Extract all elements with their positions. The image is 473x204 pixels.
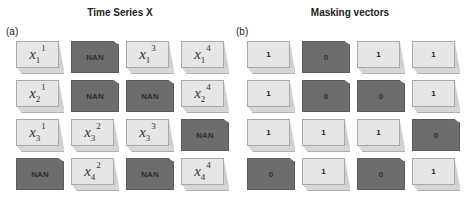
variable-superscript: 4 xyxy=(206,43,211,53)
cell-bottom-face xyxy=(182,185,229,191)
variable-superscript: 1 xyxy=(41,43,46,53)
mask-zero-cell: 0 xyxy=(302,80,350,112)
cell-face: 1 xyxy=(247,119,290,146)
nan-label: NAN xyxy=(31,170,48,179)
mask-zero-cell: 0 xyxy=(357,80,405,112)
observed-value-cell: x33 xyxy=(126,119,174,151)
cell-face: 0 xyxy=(357,80,405,112)
variable-base: x xyxy=(194,163,201,179)
nan-label: NAN xyxy=(196,131,213,140)
variable-base: x xyxy=(29,124,36,140)
variable-base: x xyxy=(139,46,146,62)
mask-value: 0 xyxy=(269,170,273,179)
observed-value-cell: x14 xyxy=(181,41,229,73)
cell-side-face xyxy=(114,121,119,148)
variable-base: x xyxy=(194,46,201,62)
cell-side-face xyxy=(224,43,229,70)
cell-side-face xyxy=(169,121,174,148)
panel-b-title: Masking vectors xyxy=(250,7,450,18)
cell-bottom-face xyxy=(17,107,64,113)
mask-one-cell: 1 xyxy=(302,119,350,151)
mask-value: 1 xyxy=(431,167,435,176)
variable-label: x11 xyxy=(29,46,46,63)
mask-value: 0 xyxy=(379,170,383,179)
mask-value: 1 xyxy=(266,89,270,98)
cell-bottom-face xyxy=(17,146,64,152)
mask-value: 0 xyxy=(324,53,328,62)
cell-side-face xyxy=(224,82,229,109)
cell-face: 1 xyxy=(357,41,400,68)
mask-value: 0 xyxy=(434,131,438,140)
missing-value-cell: NAN xyxy=(71,80,119,112)
missing-value-cell: NAN xyxy=(126,80,174,112)
cell-bottom-face xyxy=(248,68,295,74)
cell-face: 1 xyxy=(357,119,400,146)
cell-face: x33 xyxy=(126,119,169,146)
cell-side-face xyxy=(455,82,460,109)
cell-side-face xyxy=(59,43,64,70)
mask-one-cell: 1 xyxy=(357,119,405,151)
variable-superscript: 4 xyxy=(206,160,211,170)
mask-one-cell: 1 xyxy=(247,41,295,73)
panel-a-label: (a) xyxy=(6,26,18,37)
variable-superscript: 2 xyxy=(96,121,101,131)
mask-zero-cell: 0 xyxy=(302,41,350,73)
mask-one-cell: 1 xyxy=(302,158,350,190)
cell-face: 0 xyxy=(302,41,350,73)
variable-subscript: 3 xyxy=(91,133,96,143)
missing-value-cell: NAN xyxy=(181,119,229,151)
cell-bottom-face xyxy=(358,68,405,74)
cell-side-face xyxy=(345,121,350,148)
mask-value: 1 xyxy=(431,50,435,59)
variable-base: x xyxy=(84,124,91,140)
missing-value-cell: NAN xyxy=(126,158,174,190)
variable-label: x21 xyxy=(29,85,46,102)
cell-face: x44 xyxy=(181,158,224,185)
variable-label: x13 xyxy=(139,46,156,63)
variable-subscript: 3 xyxy=(146,133,151,143)
variable-label: x44 xyxy=(194,163,211,180)
cell-face: 0 xyxy=(302,80,350,112)
cell-face: x31 xyxy=(16,119,59,146)
cell-face: 0 xyxy=(412,119,460,151)
cell-bottom-face xyxy=(413,68,460,74)
cell-side-face xyxy=(345,160,350,187)
variable-subscript: 1 xyxy=(146,55,151,65)
mask-value: 1 xyxy=(376,50,380,59)
variable-subscript: 4 xyxy=(201,172,206,182)
nan-label: NAN xyxy=(141,170,158,179)
cell-bottom-face xyxy=(17,68,64,74)
cell-face: x14 xyxy=(181,41,224,68)
observed-value-cell: x31 xyxy=(16,119,64,151)
observed-value-cell: x11 xyxy=(16,41,64,73)
cell-side-face xyxy=(290,43,295,70)
variable-label: x24 xyxy=(194,85,211,102)
cell-face: x21 xyxy=(16,80,59,107)
mask-one-cell: 1 xyxy=(247,80,295,112)
mask-zero-cell: 0 xyxy=(247,158,295,190)
cell-bottom-face xyxy=(358,146,405,152)
variable-subscript: 3 xyxy=(36,133,41,143)
cell-face: NAN xyxy=(16,158,64,190)
mask-value: 0 xyxy=(324,92,328,101)
cell-side-face xyxy=(455,43,460,70)
cell-face: x24 xyxy=(181,80,224,107)
variable-base: x xyxy=(29,85,36,101)
variable-subscript: 1 xyxy=(201,55,206,65)
cell-side-face xyxy=(455,160,460,187)
cell-face: NAN xyxy=(71,80,119,112)
cell-face: NAN xyxy=(126,158,174,190)
variable-superscript: 4 xyxy=(206,82,211,92)
cell-bottom-face xyxy=(72,146,119,152)
variable-base: x xyxy=(139,124,146,140)
variable-base: x xyxy=(84,163,91,179)
cell-side-face xyxy=(59,121,64,148)
cell-side-face xyxy=(169,43,174,70)
cell-side-face xyxy=(400,43,405,70)
mask-one-cell: 1 xyxy=(247,119,295,151)
cell-bottom-face xyxy=(413,107,460,113)
variable-superscript: 3 xyxy=(151,43,156,53)
cell-side-face xyxy=(290,121,295,148)
cell-face: NAN xyxy=(71,41,119,73)
mask-one-cell: 1 xyxy=(412,80,460,112)
